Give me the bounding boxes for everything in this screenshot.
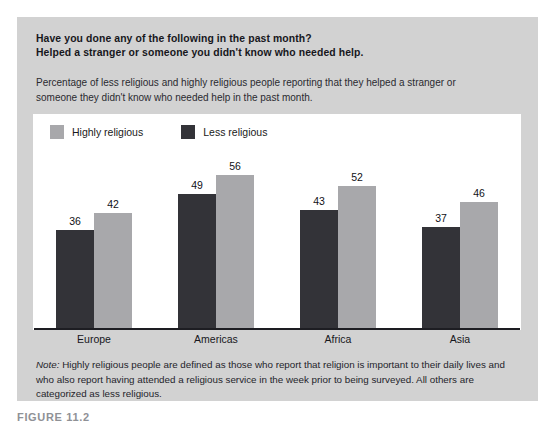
category-label-asia: Asia (399, 333, 521, 345)
bar-group-bars: 3746 (399, 114, 521, 329)
bar-wrap: 42 (94, 114, 132, 329)
chart-plot-area: 3642495643523746 (33, 114, 521, 330)
bar (94, 213, 132, 329)
chart-plot-box: Highly religious Less religious 36424956… (33, 114, 521, 330)
figure-note: Note: Highly religious people are define… (36, 358, 514, 402)
bar (56, 230, 94, 329)
bar (422, 227, 460, 329)
bar-value-label: 46 (473, 188, 485, 199)
figure-caption: FIGURE 11.2 (17, 411, 317, 422)
chart-bar-groups: 3642495643523746 (33, 114, 521, 330)
bar (178, 194, 216, 329)
bar-wrap: 49 (178, 114, 216, 329)
bar-value-label: 43 (313, 196, 325, 207)
bar-value-label: 42 (107, 199, 119, 210)
bar-wrap: 43 (300, 114, 338, 329)
figure-headline: Have you done any of the following in th… (36, 32, 506, 60)
bar-value-label: 52 (351, 172, 363, 183)
headline-line-1: Have you done any of the following in th… (36, 32, 506, 46)
bar-wrap: 37 (422, 114, 460, 329)
bar-group-europe: 3642 (33, 114, 155, 330)
chart-x-axis-line (34, 328, 520, 330)
category-label-africa: Africa (277, 333, 399, 345)
bar-value-label: 56 (229, 161, 241, 172)
bar-value-label: 36 (69, 216, 81, 227)
bar (300, 210, 338, 329)
figure-subhead: Percentage of less religious and highly … (36, 75, 491, 105)
category-label-europe: Europe (33, 333, 155, 345)
bar (460, 202, 498, 329)
bar-group-bars: 3642 (33, 114, 155, 329)
note-text: Highly religious people are defined as t… (36, 359, 505, 399)
bar-group-bars: 4956 (155, 114, 277, 329)
bar-value-label: 37 (435, 213, 447, 224)
bar-wrap: 56 (216, 114, 254, 329)
bar-group-americas: 4956 (155, 114, 277, 330)
bar-group-asia: 3746 (399, 114, 521, 330)
bar (216, 175, 254, 329)
chart-category-labels: EuropeAmericasAfricaAsia (33, 333, 521, 345)
bar-wrap: 52 (338, 114, 376, 329)
category-label-americas: Americas (155, 333, 277, 345)
bar-wrap: 46 (460, 114, 498, 329)
figure-panel: Have you done any of the following in th… (17, 17, 538, 401)
bar-value-label: 49 (191, 180, 203, 191)
bar-group-bars: 4352 (277, 114, 399, 329)
bar-wrap: 36 (56, 114, 94, 329)
bar-group-africa: 4352 (277, 114, 399, 330)
headline-line-2: Helped a stranger or someone you didn't … (36, 46, 506, 60)
note-label: Note: (36, 359, 59, 370)
bar (338, 186, 376, 329)
figure-root: Have you done any of the following in th… (0, 0, 555, 422)
